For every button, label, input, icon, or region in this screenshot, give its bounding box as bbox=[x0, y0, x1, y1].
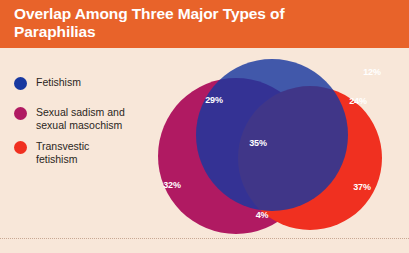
bottom-band bbox=[0, 239, 409, 253]
header-band: Overlap Among Three Major Types of Parap… bbox=[0, 0, 409, 48]
legend-swatch-icon bbox=[14, 141, 27, 154]
legend-swatch-icon bbox=[14, 77, 27, 90]
venn-svg bbox=[150, 48, 400, 243]
region-label-transvestic-only: 37% bbox=[353, 182, 370, 192]
region-label-all-three: 35% bbox=[249, 138, 266, 148]
circle-fetishism bbox=[196, 59, 348, 211]
infographic-panel: Overlap Among Three Major Types of Parap… bbox=[0, 0, 409, 253]
region-label-sadism-transvestic: 4% bbox=[256, 210, 269, 220]
region-label-sadism-only: 32% bbox=[163, 180, 180, 190]
legend-swatch-icon bbox=[14, 107, 27, 120]
page-title: Overlap Among Three Major Types of Parap… bbox=[14, 5, 294, 41]
region-label-fetishism-transvestic: 24% bbox=[349, 96, 366, 106]
dotted-divider bbox=[0, 238, 409, 239]
region-label-fetishism-only: 12% bbox=[363, 67, 380, 77]
region-label-fetishism-sadism: 29% bbox=[205, 95, 222, 105]
venn-diagram: 12% 29% 24% 35% 32% 37% 4% bbox=[150, 48, 400, 247]
